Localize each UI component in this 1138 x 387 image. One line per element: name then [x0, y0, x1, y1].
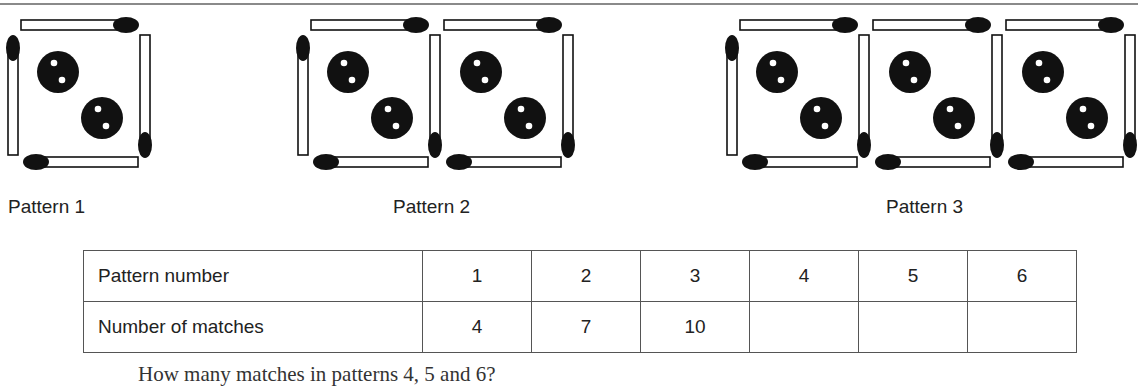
pattern-3-match-top-head — [832, 17, 858, 33]
pattern-2-match-bottom-head — [313, 154, 339, 170]
pattern-3-coin-1-icon-hole — [778, 77, 785, 84]
pattern-2-match-bottom-head — [446, 154, 472, 170]
row-header: Number of matches — [84, 302, 423, 353]
table-cell: 5 — [859, 251, 968, 302]
pattern-3-coin-2-icon-hole — [1080, 106, 1087, 113]
pattern-3-match-bottom-head — [742, 154, 768, 170]
table-cell: 4 — [750, 251, 859, 302]
pattern-3-coin-2-icon-hole — [1088, 123, 1095, 130]
pattern-3-match-right-head — [857, 132, 871, 158]
pattern-2-label: Pattern 2 — [393, 196, 470, 218]
pattern-3-coin-1-icon-hole — [911, 77, 918, 84]
pattern-3-coin-2-icon-hole — [822, 123, 829, 130]
pattern-2-match-top-head — [403, 17, 429, 33]
pattern-1-coin-1-icon-hole — [51, 60, 58, 67]
pattern-2-match-right-stick — [430, 35, 440, 145]
pattern-3-match-top-stick — [1006, 20, 1111, 30]
pattern-1-match-left-head — [6, 35, 20, 61]
answer-cell-6[interactable] — [968, 302, 1077, 353]
pattern-2-coin-1-icon — [327, 51, 369, 93]
pattern-1-match-top-head — [113, 17, 139, 33]
table-cell: 3 — [641, 251, 750, 302]
pattern-3-label: Pattern 3 — [886, 196, 963, 218]
pattern-2-coin-1-icon — [460, 51, 502, 93]
pattern-3-coin-1-icon-hole — [770, 60, 777, 67]
pattern-2-coin-2-icon-hole — [393, 123, 400, 130]
pattern-3-coin-1-icon — [1022, 51, 1064, 93]
pattern-3-match-right-stick — [992, 35, 1002, 145]
pattern-2-match-right-head — [561, 132, 575, 158]
pattern-2-match-top-head — [536, 17, 562, 33]
pattern-2-match-left-stick — [298, 48, 308, 155]
table-cell: 10 — [641, 302, 750, 353]
pattern-1-label: Pattern 1 — [8, 196, 85, 218]
pattern-2-coin-2-icon-hole — [526, 123, 533, 130]
pattern-table: Pattern number 1 2 3 4 5 6 Number of mat… — [83, 250, 1077, 353]
pattern-3-match-right-head — [1123, 132, 1137, 158]
pattern-3-coin-1-icon-hole — [1044, 77, 1051, 84]
pattern-2-match-top-stick — [311, 20, 416, 30]
pattern-3-match-top-stick — [740, 20, 845, 30]
pattern-3-match-top-head — [1098, 17, 1124, 33]
question-text: How many matches in patterns 4, 5 and 6? — [138, 362, 496, 387]
table-cell: 6 — [968, 251, 1077, 302]
pattern-2-coin-1-icon-hole — [341, 60, 348, 67]
pattern-2-coin-1-icon-hole — [482, 77, 489, 84]
pattern-1-match-bottom-head — [23, 154, 49, 170]
pattern-3-coin-1-icon — [756, 51, 798, 93]
table-cell: 1 — [423, 251, 532, 302]
row-header: Pattern number — [84, 251, 423, 302]
pattern-3-coin-2-icon-hole — [955, 123, 962, 130]
pattern-1-match-right-head — [138, 132, 152, 158]
pattern-2-match-right-head — [428, 132, 442, 158]
pattern-3-coin-1-icon-hole — [1036, 60, 1043, 67]
pattern-3-match-bottom-head — [875, 154, 901, 170]
pattern-3-match-right-head — [990, 132, 1004, 158]
pattern-3-coin-2-icon-hole — [814, 106, 821, 113]
pattern-1-coin-2-icon-hole — [103, 123, 110, 130]
table-row-pattern-number: Pattern number 1 2 3 4 5 6 — [84, 251, 1077, 302]
pattern-2-coin-1-icon-hole — [474, 60, 481, 67]
pattern-2-coin-2-icon-hole — [385, 106, 392, 113]
answer-cell-4[interactable] — [750, 302, 859, 353]
pattern-2-match-left-head — [296, 35, 310, 61]
pattern-3-match-top-stick — [873, 20, 978, 30]
pattern-3-match-bottom-head — [1008, 154, 1034, 170]
table-cell: 2 — [532, 251, 641, 302]
pattern-3-coin-1-icon — [889, 51, 931, 93]
pattern-2-coin-2-icon — [371, 97, 413, 139]
pattern-2-match-top-stick — [444, 20, 549, 30]
matchstick-figure — [0, 0, 1138, 200]
pattern-1-coin-2-icon — [81, 97, 123, 139]
pattern-2-match-right-stick — [563, 35, 573, 145]
pattern-3-coin-2-icon — [933, 97, 975, 139]
pattern-3-coin-2-icon — [1066, 97, 1108, 139]
pattern-3-match-left-head — [725, 35, 739, 61]
pattern-2-coin-2-icon-hole — [518, 106, 525, 113]
pattern-3-match-left-stick — [727, 48, 737, 155]
table-cell: 4 — [423, 302, 532, 353]
pattern-1-coin-1-icon-hole — [59, 77, 66, 84]
pattern-3-coin-2-icon-hole — [947, 106, 954, 113]
pattern-3-match-right-stick — [859, 35, 869, 145]
pattern-1-coin-2-icon-hole — [95, 106, 102, 113]
table-row-number-of-matches: Number of matches 4 7 10 — [84, 302, 1077, 353]
pattern-3-match-top-head — [965, 17, 991, 33]
pattern-2-coin-2-icon — [504, 97, 546, 139]
pattern-1-coin-1-icon — [37, 51, 79, 93]
pattern-1-match-top-stick — [21, 20, 126, 30]
pattern-1-match-right-stick — [140, 35, 150, 145]
table-cell: 7 — [532, 302, 641, 353]
pattern-1-match-left-stick — [8, 48, 18, 155]
pattern-3-coin-2-icon — [800, 97, 842, 139]
answer-cell-5[interactable] — [859, 302, 968, 353]
pattern-3-coin-1-icon-hole — [903, 60, 910, 67]
pattern-3-match-right-stick — [1125, 35, 1135, 145]
pattern-2-coin-1-icon-hole — [349, 77, 356, 84]
